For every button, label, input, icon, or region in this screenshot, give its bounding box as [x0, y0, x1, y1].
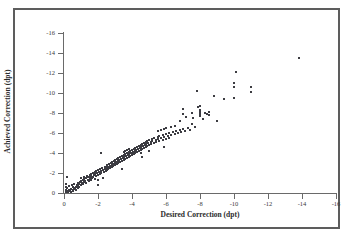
y-tick-label: -4 — [33, 149, 55, 156]
data-point — [177, 132, 179, 134]
data-point — [121, 168, 123, 170]
y-axis-title: Achieved Correction (dpt) — [3, 31, 12, 193]
y-tick-label: -10 — [33, 89, 55, 96]
data-point — [185, 116, 187, 118]
data-point — [150, 143, 152, 145]
data-point — [174, 133, 176, 135]
data-point — [191, 123, 193, 125]
data-point — [66, 176, 68, 178]
data-point — [298, 57, 300, 59]
data-point — [141, 156, 143, 158]
y-tick-mark — [58, 33, 64, 34]
y-tick-label: 0 — [33, 189, 55, 196]
data-point — [213, 95, 215, 97]
data-point — [155, 141, 157, 143]
data-point — [199, 115, 201, 117]
data-point — [182, 108, 184, 110]
data-point — [199, 111, 201, 113]
data-point — [170, 126, 172, 128]
data-point — [233, 82, 235, 84]
y-tick-label: -14 — [33, 49, 55, 56]
data-point — [202, 118, 204, 120]
y-tick-label: -2 — [33, 169, 55, 176]
data-point — [97, 179, 99, 181]
y-axis-title-wrap: Achieved Correction (dpt) — [0, 32, 14, 194]
x-tick-mark — [234, 193, 235, 199]
x-tick-label: -4 — [121, 200, 143, 207]
x-tick-mark — [166, 193, 167, 199]
x-tick-mark — [64, 193, 65, 199]
data-point — [216, 120, 218, 122]
data-point — [165, 127, 167, 129]
x-tick-mark — [336, 193, 337, 199]
data-point — [82, 183, 84, 185]
y-tick-label: -12 — [33, 69, 55, 76]
data-point — [184, 130, 186, 132]
data-point — [65, 183, 67, 185]
x-tick-mark — [302, 193, 303, 199]
y-tick-mark — [58, 113, 64, 114]
y-tick-mark — [58, 173, 64, 174]
x-axis-title: Desired Correction (dpt) — [63, 210, 337, 219]
data-point — [102, 177, 104, 179]
x-tick-mark — [200, 193, 201, 199]
data-point — [78, 186, 80, 188]
data-point — [168, 137, 170, 139]
data-point — [163, 146, 165, 148]
data-point — [170, 134, 172, 136]
data-point — [196, 90, 198, 92]
y-tick-mark — [58, 73, 64, 74]
data-point — [148, 150, 150, 152]
x-tick-label: -12 — [257, 200, 279, 207]
data-point — [182, 113, 184, 115]
data-point — [223, 98, 225, 100]
x-tick-label: -6 — [155, 200, 177, 207]
x-tick-label: -16 — [325, 200, 347, 207]
data-point — [233, 97, 235, 99]
data-point — [75, 189, 77, 191]
data-point — [94, 178, 96, 180]
data-point — [157, 130, 159, 132]
x-tick-mark — [132, 193, 133, 199]
y-tick-mark — [58, 153, 64, 154]
scatter-plot: 0-2-4-6-8-10-12-14-16 0-2-4-6-8-10-12-14… — [0, 0, 351, 242]
y-tick-label: -16 — [33, 29, 55, 36]
data-point — [179, 120, 181, 122]
x-tick-mark — [98, 193, 99, 199]
data-point — [162, 139, 164, 141]
data-point — [233, 86, 235, 88]
x-tick-mark — [268, 193, 269, 199]
data-point — [250, 86, 252, 88]
data-point — [160, 129, 162, 131]
x-tick-label: 0 — [53, 200, 75, 207]
data-point — [90, 179, 92, 181]
x-tick-label: -8 — [189, 200, 211, 207]
data-point — [189, 129, 191, 131]
data-point — [174, 125, 176, 127]
x-tick-label: -10 — [223, 200, 245, 207]
data-point — [208, 114, 210, 116]
y-tick-label: -8 — [33, 109, 55, 116]
y-tick-mark — [58, 93, 64, 94]
x-tick-label: -14 — [291, 200, 313, 207]
data-point — [85, 182, 87, 184]
data-point — [235, 71, 237, 73]
figure: 0-2-4-6-8-10-12-14-16 0-2-4-6-8-10-12-14… — [0, 0, 351, 242]
y-tick-label: -6 — [33, 129, 55, 136]
data-point — [165, 138, 167, 140]
data-point — [191, 112, 193, 114]
data-point — [194, 126, 196, 128]
y-tick-mark — [58, 133, 64, 134]
data-point — [208, 111, 210, 113]
y-tick-mark — [58, 53, 64, 54]
x-tick-label: -2 — [87, 200, 109, 207]
data-point — [199, 105, 201, 107]
data-point — [97, 184, 99, 186]
data-point — [250, 91, 252, 93]
data-point — [192, 117, 194, 119]
data-point — [180, 131, 182, 133]
data-point — [140, 152, 142, 154]
data-point — [100, 152, 102, 154]
data-point — [158, 140, 160, 142]
